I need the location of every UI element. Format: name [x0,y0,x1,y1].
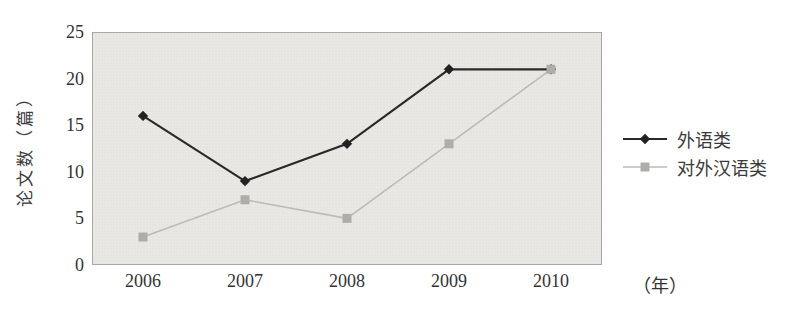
x-axis-unit-label: （年） [633,271,687,297]
square-data-point-marker [445,139,454,148]
square-marker-icon [622,160,668,174]
legend-label-chinese-as-foreign-language: 对外汉语类 [677,154,767,180]
y-tick-label: 25 [0,21,84,43]
legend-item-chinese-as-foreign-language: 对外汉语类 [622,154,767,180]
x-tick-label: 2008 [302,271,392,292]
legend-label-foreign-language: 外语类 [677,126,731,152]
line-chart-figure: 论文数（篇） （年） 外语类 对外汉语类 0510152025200620072… [0,0,787,317]
y-axis-title: 论文数（篇） [11,87,36,207]
x-tick-label: 2006 [98,271,188,292]
diamond-marker-icon [622,132,668,146]
y-tick-label: 5 [0,207,84,229]
y-tick-label: 20 [0,68,84,90]
square-data-point-marker [139,233,148,242]
x-tick-label: 2010 [506,271,596,292]
square-data-point-marker [547,65,556,74]
y-tick-label: 15 [0,114,84,136]
x-tick-label: 2007 [200,271,290,292]
y-tick-label: 10 [0,161,84,183]
square-data-point-marker [343,214,352,223]
x-tick-label: 2009 [404,271,494,292]
square-data-point-marker [241,195,250,204]
y-tick-label: 0 [0,254,84,276]
plot-area [92,32,602,265]
legend-item-foreign-language: 外语类 [622,126,767,152]
legend: 外语类 对外汉语类 [622,126,767,180]
